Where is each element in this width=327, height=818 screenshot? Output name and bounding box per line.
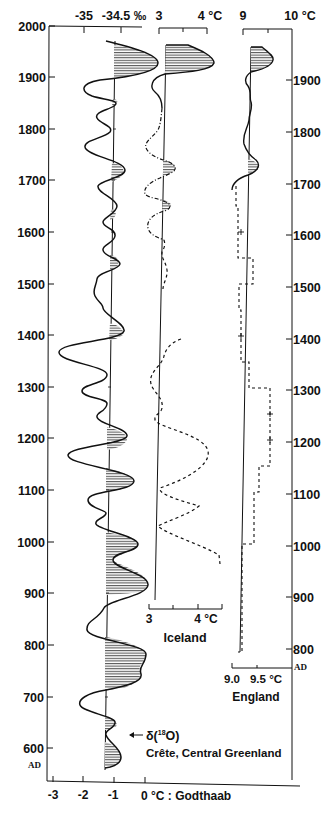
right-year-axis: 1900 1800 1700 1600 1500 1400 1300 1200 …: [286, 29, 321, 780]
year-label: 900: [24, 587, 45, 601]
year-label: 1600: [17, 226, 45, 240]
svg-text:-35: -35: [75, 9, 93, 23]
d18o-series: [59, 41, 158, 770]
svg-text:9.0: 9.0: [224, 673, 240, 685]
greenland-caption: Crête, Central Greenland: [146, 747, 281, 759]
svg-text:9: 9: [240, 9, 247, 23]
svg-text:3: 3: [156, 9, 163, 23]
svg-text:1600: 1600: [293, 229, 321, 243]
svg-text:1800: 1800: [293, 126, 321, 140]
ad-label: AD: [28, 760, 41, 770]
year-label: 700: [23, 691, 44, 705]
svg-text:-3: -3: [48, 788, 59, 802]
svg-text:1100: 1100: [293, 488, 320, 502]
ad-label: AD: [294, 662, 307, 672]
svg-text:-2: -2: [78, 788, 89, 802]
svg-text:-1: -1: [108, 788, 119, 802]
year-label: 800: [24, 639, 45, 653]
svg-text:4 °C: 4 °C: [198, 9, 222, 23]
year-label: 1000: [17, 536, 45, 550]
year-label: 1400: [17, 329, 45, 343]
year-label: 1300: [17, 381, 45, 395]
england-label: England: [232, 690, 279, 704]
svg-text:10 °C: 10 °C: [284, 9, 315, 23]
d18o-annotation: δ(18O) Crête, Central Greenland: [129, 729, 281, 759]
svg-text:δ(18O): δ(18O): [146, 729, 179, 743]
year-label: 2000: [18, 20, 46, 34]
svg-text:1400: 1400: [293, 333, 321, 347]
svg-text:1200: 1200: [293, 436, 321, 450]
godthaab-bottom-scale: -3 -2 -1 0 °C : Godthaab: [47, 776, 300, 803]
svg-text:1900: 1900: [293, 74, 321, 88]
svg-text:800: 800: [293, 643, 314, 657]
year-label: 1100: [18, 484, 45, 498]
year-label: 1900: [18, 71, 46, 85]
d18o-top-scale: -35 -34.5 ‰: [75, 9, 147, 33]
svg-text:0 °C : Godthaab: 0 °C : Godthaab: [141, 789, 231, 803]
svg-text:-34.5 ‰: -34.5 ‰: [102, 9, 147, 23]
iceland-series: 3 4 °C 3 4 °C Iceland: [145, 9, 223, 645]
svg-text:9.5 °C: 9.5 °C: [250, 673, 282, 685]
svg-text:1300: 1300: [293, 384, 321, 398]
climate-proxy-chart: 2000 1900 1800 1700 1600 1500 1400 1300 …: [0, 0, 327, 818]
svg-text:4 °C: 4 °C: [194, 612, 218, 626]
svg-text:1000: 1000: [293, 540, 321, 554]
svg-text:1500: 1500: [293, 281, 321, 295]
iceland-label: Iceland: [163, 631, 206, 645]
svg-text:900: 900: [293, 591, 314, 605]
year-label: 1800: [18, 123, 46, 137]
year-label: 1700: [18, 174, 46, 188]
svg-text:1700: 1700: [293, 178, 321, 192]
year-label: 1500: [17, 278, 45, 292]
year-label: 600: [23, 742, 44, 756]
svg-text:3: 3: [146, 612, 153, 626]
year-label: 1200: [17, 432, 45, 446]
